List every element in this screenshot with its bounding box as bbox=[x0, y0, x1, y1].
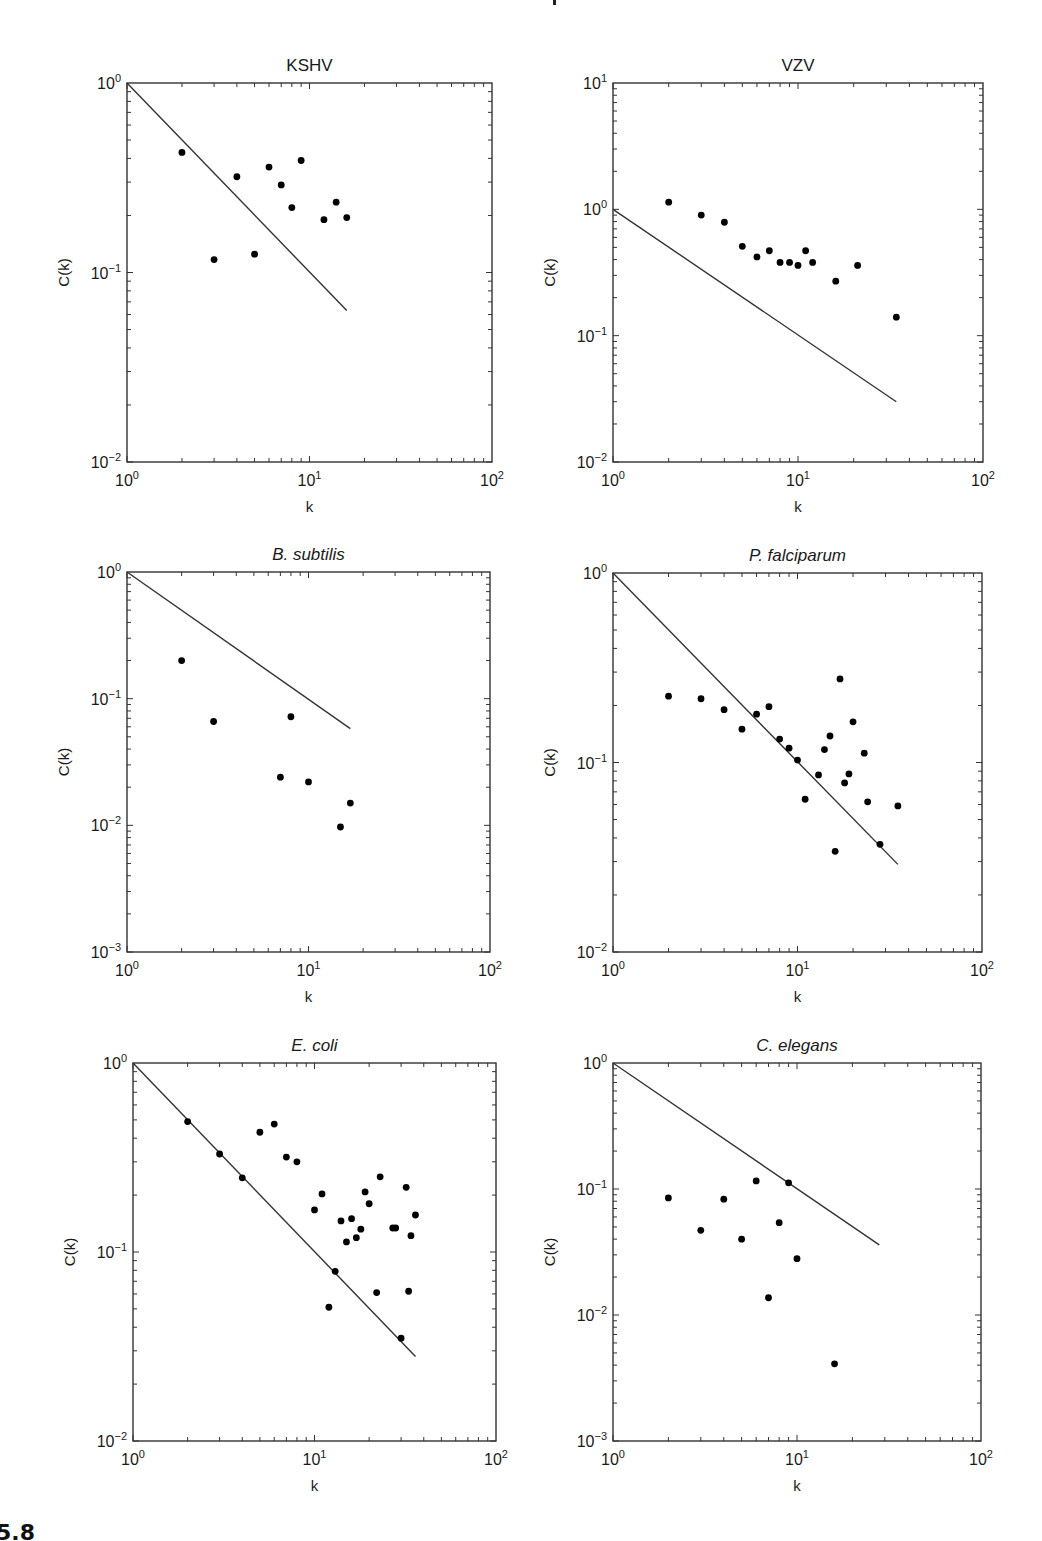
data-point bbox=[333, 199, 340, 206]
data-point bbox=[721, 706, 728, 713]
power-law-fit-line bbox=[613, 209, 896, 401]
tick-label: 100 bbox=[601, 959, 625, 979]
data-points bbox=[184, 1118, 419, 1341]
data-point bbox=[785, 1179, 792, 1186]
data-point bbox=[398, 1335, 405, 1342]
data-point bbox=[294, 1158, 301, 1165]
data-point bbox=[403, 1184, 410, 1191]
data-point bbox=[721, 219, 728, 226]
data-point bbox=[357, 1226, 364, 1233]
y-axis-label: C(k) bbox=[541, 258, 558, 286]
data-points bbox=[179, 149, 351, 263]
data-point bbox=[766, 703, 773, 710]
data-point bbox=[846, 771, 853, 778]
data-point bbox=[233, 173, 240, 180]
data-point bbox=[278, 181, 285, 188]
panel-title: C. elegans bbox=[756, 1036, 838, 1055]
data-point bbox=[861, 750, 868, 757]
data-point bbox=[832, 278, 839, 285]
data-point bbox=[802, 247, 809, 254]
tick-label: 102 bbox=[969, 1448, 993, 1468]
data-point bbox=[251, 251, 258, 258]
data-point bbox=[739, 243, 746, 250]
y-axis-label: C(k) bbox=[541, 1238, 558, 1266]
data-point bbox=[753, 711, 760, 718]
data-point bbox=[841, 780, 848, 787]
data-point bbox=[850, 718, 857, 725]
tick-label: 10−2 bbox=[97, 1430, 127, 1450]
data-point bbox=[343, 214, 350, 221]
data-point bbox=[362, 1188, 369, 1195]
data-point bbox=[837, 676, 844, 683]
data-point bbox=[353, 1234, 360, 1241]
y-axis-label: C(k) bbox=[55, 748, 72, 776]
data-point bbox=[412, 1212, 419, 1219]
tick-label: 10−2 bbox=[577, 1304, 607, 1324]
data-point bbox=[794, 1255, 801, 1262]
data-point bbox=[211, 256, 218, 263]
data-point bbox=[184, 1118, 191, 1125]
data-point bbox=[739, 726, 746, 733]
panel-b-subtilis: B. subtilis10010110210−310−210−1100kC(k) bbox=[55, 545, 502, 1005]
data-point bbox=[698, 212, 705, 219]
data-point bbox=[405, 1288, 412, 1295]
data-point bbox=[765, 1294, 772, 1301]
data-point bbox=[738, 1236, 745, 1243]
tick-label: 100 bbox=[115, 959, 139, 979]
data-point bbox=[266, 164, 273, 171]
data-point bbox=[665, 199, 672, 206]
panel-title: P. falciparum bbox=[749, 546, 846, 565]
data-point bbox=[776, 1219, 783, 1226]
axis-ticks bbox=[613, 83, 983, 462]
data-point bbox=[815, 772, 822, 779]
data-point bbox=[665, 1194, 672, 1201]
tick-label: 100 bbox=[601, 1448, 625, 1468]
data-point bbox=[794, 757, 801, 764]
panel-p-falciparum: P. falciparum10010110210−210−1100kC(k) bbox=[541, 546, 994, 1005]
figure-canvas: KSHV10010110210−210−1100kC(k)VZV10010110… bbox=[0, 0, 1042, 1541]
data-point bbox=[802, 796, 809, 803]
data-point bbox=[283, 1154, 290, 1161]
data-point bbox=[321, 216, 328, 223]
tick-label: 100 bbox=[103, 1052, 127, 1072]
data-point bbox=[332, 1268, 339, 1275]
data-point bbox=[720, 1196, 727, 1203]
x-axis-label: k bbox=[793, 1477, 801, 1494]
panel-title: KSHV bbox=[286, 56, 333, 75]
x-axis-label: k bbox=[306, 498, 314, 515]
tick-label: 101 bbox=[297, 959, 321, 979]
data-point bbox=[831, 1360, 838, 1367]
tick-label: 10−2 bbox=[577, 941, 607, 961]
data-point bbox=[288, 204, 295, 211]
tick-label: 102 bbox=[971, 469, 995, 489]
tick-label: 101 bbox=[785, 1448, 809, 1468]
tick-label: 100 bbox=[97, 72, 121, 92]
data-point bbox=[366, 1200, 373, 1207]
x-axis-label: k bbox=[794, 498, 802, 515]
data-point bbox=[288, 713, 295, 720]
tick-label: 101 bbox=[786, 469, 810, 489]
plot-frame bbox=[613, 1063, 981, 1441]
data-point bbox=[392, 1225, 399, 1232]
data-point bbox=[239, 1174, 246, 1181]
data-point bbox=[893, 314, 900, 321]
data-point bbox=[697, 1227, 704, 1234]
data-points bbox=[665, 1177, 838, 1367]
tick-label: 100 bbox=[601, 469, 625, 489]
data-point bbox=[894, 803, 901, 810]
panel-kshv: KSHV10010110210−210−1100kC(k) bbox=[55, 56, 504, 515]
data-points bbox=[178, 657, 353, 830]
data-point bbox=[210, 718, 217, 725]
panel-c-elegans: C. elegans10010110210−310−210−1100kC(k) bbox=[541, 1036, 993, 1494]
data-point bbox=[338, 1218, 345, 1225]
power-law-fit-line bbox=[613, 573, 898, 864]
tick-label: 102 bbox=[478, 959, 502, 979]
data-point bbox=[311, 1207, 318, 1214]
tick-label: 100 bbox=[115, 469, 139, 489]
figure-number-label: 5.8 bbox=[0, 1522, 35, 1541]
tick-label: 10−3 bbox=[91, 941, 121, 961]
tick-label: 102 bbox=[484, 1448, 508, 1468]
tick-label: 102 bbox=[970, 959, 994, 979]
data-point bbox=[216, 1151, 223, 1158]
power-law-fit-line bbox=[127, 83, 347, 311]
